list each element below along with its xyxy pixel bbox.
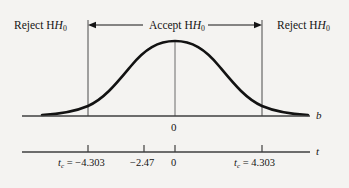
accept-arrow-head-right	[254, 22, 262, 28]
t-axis-label-critical-lower: tc = −4.303	[58, 158, 105, 170]
accept-arrow-head-left	[88, 22, 96, 28]
t-axis-letter-label: t	[316, 146, 319, 157]
accept-region-label: Accept HH0	[146, 20, 208, 33]
b-axis-letter-label: b	[316, 110, 322, 121]
t-axis-label-zero: 0	[171, 158, 176, 169]
figure-container: Reject HH0 Accept HH0 Reject HH0 b t 0 t…	[0, 0, 349, 188]
t-axis-label-test-statistic: −2.47	[130, 158, 154, 169]
b-axis-zero-label: 0	[171, 122, 177, 133]
left-reject-region-label: Reject HH0	[14, 20, 67, 33]
t-axis-label-critical-upper: tc = 4.303	[234, 158, 275, 170]
right-reject-region-label: Reject HH0	[277, 20, 330, 33]
